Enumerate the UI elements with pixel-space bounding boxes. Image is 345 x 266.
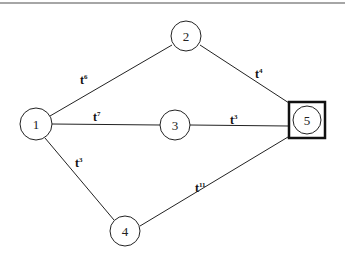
node-label: 3: [172, 118, 179, 133]
edge-4-5: [140, 137, 288, 226]
edge-1-4: [45, 138, 114, 220]
node-1: 1: [20, 108, 52, 140]
node-label: 1: [33, 117, 40, 132]
edge-2-5: [200, 45, 289, 103]
edge-label-1-3: t7: [93, 110, 101, 124]
node-label: 5: [304, 113, 311, 128]
node-label: 2: [183, 29, 190, 44]
node-4: 4: [110, 216, 140, 246]
edge-label-4-5: t11: [195, 181, 206, 195]
node-label: 4: [122, 224, 129, 239]
node-3: 3: [160, 110, 190, 140]
edge-label-3-5: t3: [230, 113, 238, 127]
nodes: 1 2 3 4 5: [20, 21, 325, 246]
network-diagram: t6 t7 t3 t4 t3 t11 1 2 3 4 5: [0, 0, 345, 266]
edge-label-1-4: t3: [75, 156, 83, 170]
edge-label-2-5: t4: [255, 67, 263, 81]
node-2: 2: [171, 21, 201, 51]
edge-label-1-2: t6: [80, 73, 88, 87]
edge-1-3: [52, 124, 160, 125]
edge-1-2: [50, 45, 172, 116]
edge-3-5: [190, 125, 288, 126]
node-5-highlighted: 5: [289, 102, 325, 138]
